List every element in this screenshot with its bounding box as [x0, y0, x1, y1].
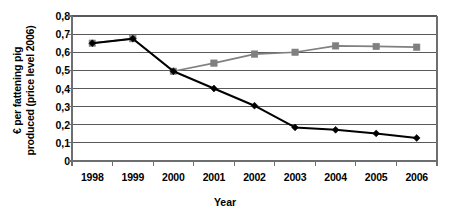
x-tick-label-2003: 2003	[275, 172, 316, 183]
x-tick-label-2002: 2002	[234, 172, 275, 183]
x-tick-label-2005: 2005	[356, 172, 397, 183]
x-tick-label-1998: 1998	[72, 172, 113, 183]
x-tick-label-2006: 2006	[396, 172, 437, 183]
x-tick-label-2004: 2004	[315, 172, 356, 183]
x-tick-label-1999: 1999	[113, 172, 154, 183]
x-tick-label-2001: 2001	[194, 172, 235, 183]
x-axis-tick-labels: 199819992000200120022003200420052006	[0, 0, 450, 221]
x-axis-title: Year	[0, 196, 450, 208]
chart-figure: € per fattening pig produced (price leve…	[0, 0, 450, 221]
x-tick-label-2000: 2000	[153, 172, 194, 183]
